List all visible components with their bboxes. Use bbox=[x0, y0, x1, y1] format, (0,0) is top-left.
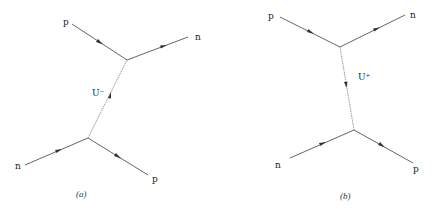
arrow-icon bbox=[55, 149, 62, 153]
label-b-bottom-out: p bbox=[413, 164, 419, 174]
arrow-icon bbox=[373, 28, 380, 32]
arrow-icon bbox=[160, 45, 167, 49]
arrow-icon bbox=[378, 142, 385, 148]
propagator-b bbox=[340, 47, 354, 130]
line-b-top-out bbox=[340, 15, 405, 47]
arrow-icon bbox=[114, 153, 121, 159]
feynman-diagrams: p n U⁻ n p (a) p n U⁺ n p (b) bbox=[0, 0, 437, 215]
label-b-top-in: p bbox=[268, 11, 274, 21]
caption-a: (a) bbox=[76, 189, 87, 199]
arrow-icon bbox=[344, 82, 348, 89]
caption-b: (b) bbox=[340, 191, 351, 201]
arrow-icon bbox=[307, 29, 314, 34]
line-a-top-out bbox=[127, 37, 188, 60]
label-b-boson: U⁺ bbox=[358, 72, 371, 82]
diagram-b: p n U⁺ n p (b) bbox=[268, 10, 419, 201]
label-b-bottom-in: n bbox=[275, 160, 281, 170]
diagram-a: p n U⁻ n p (a) bbox=[15, 17, 201, 199]
label-a-top-in: p bbox=[63, 17, 69, 27]
label-b-top-out: n bbox=[410, 10, 416, 20]
arrow-icon bbox=[108, 92, 111, 99]
arrow-icon bbox=[319, 142, 326, 146]
label-a-boson: U⁻ bbox=[92, 88, 105, 98]
label-a-bottom-out: p bbox=[152, 174, 158, 184]
label-a-top-out: n bbox=[195, 32, 201, 42]
label-a-bottom-in: n bbox=[15, 161, 21, 171]
propagator-a bbox=[88, 60, 127, 138]
